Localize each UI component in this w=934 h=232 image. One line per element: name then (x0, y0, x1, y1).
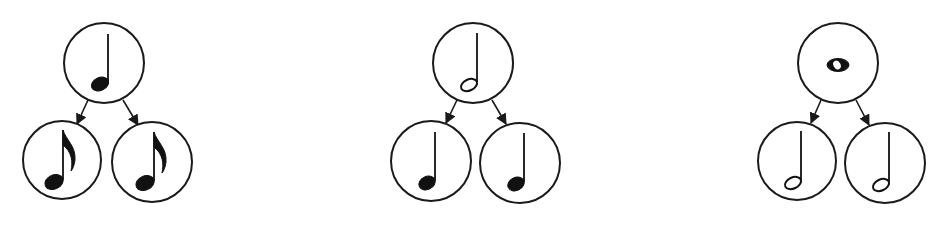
tree-whole: Whole note Half note Half note (758, 23, 925, 203)
parent-node: Whole note (798, 23, 878, 103)
child-node-left: Quarter note (391, 121, 471, 201)
arrow-right (856, 100, 869, 125)
parent-node: Half note (433, 23, 513, 103)
child-node-right: Half note (845, 123, 925, 203)
parent-node: Quarter note (64, 23, 144, 103)
child-node-right: Quarter note (480, 123, 560, 203)
note-subdivision-diagram: Quarter note Eighth note Eighth note (0, 0, 934, 232)
child-node-right: Eighth note (112, 122, 192, 202)
arrow-right (123, 100, 138, 125)
child-node-left: Eighth note (23, 121, 101, 199)
arrow-left (446, 100, 457, 123)
arrow-left (811, 100, 821, 123)
tree-quarter: Quarter note Eighth note Eighth note (23, 23, 192, 202)
arrow-left (77, 100, 88, 124)
arrow-right (492, 100, 506, 124)
child-node-left: Half note (758, 122, 836, 200)
whole-note-icon (827, 59, 849, 72)
tree-half: Half note Quarter note Quarter note (391, 23, 560, 203)
